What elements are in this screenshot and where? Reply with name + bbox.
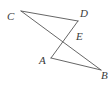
segment-DA <box>51 21 78 58</box>
figure-canvas <box>0 0 112 88</box>
segment-CB <box>21 11 101 70</box>
vertex-label-C: C <box>7 11 14 22</box>
vertex-label-A: A <box>39 55 46 66</box>
geometry-figure: C D E A B <box>0 0 112 88</box>
vertex-label-D: D <box>80 8 88 19</box>
segment-CD <box>21 11 78 21</box>
vertex-label-B: B <box>101 70 108 81</box>
vertex-label-E: E <box>76 31 83 42</box>
